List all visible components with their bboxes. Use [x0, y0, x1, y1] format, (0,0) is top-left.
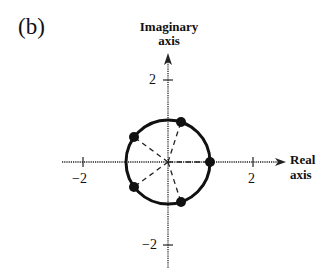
pole-point — [176, 197, 186, 207]
y-tick-label-2: 2 — [149, 73, 156, 87]
pole-diagram: (b) Imaginary axis Real axis −2 2 2 −2 — [0, 0, 330, 272]
real-axis-arrow-icon — [275, 158, 286, 166]
x-tick-label-2: 2 — [248, 172, 255, 186]
pole-point — [176, 117, 186, 127]
x-tick-label-neg2: −2 — [72, 172, 87, 186]
pole-point — [205, 157, 215, 167]
panel-label: (b) — [18, 15, 45, 38]
pole-point — [129, 182, 139, 192]
pole-point — [129, 132, 139, 142]
y-tick-label-neg2: −2 — [142, 238, 157, 252]
real-axis-title: Real axis — [290, 152, 315, 182]
imaginary-axis-title-line1: Imaginary — [134, 20, 204, 34]
real-axis-title-line1: Real — [290, 152, 315, 167]
real-axis-title-line2: axis — [290, 167, 315, 182]
imaginary-axis-title-line2: axis — [134, 34, 204, 48]
imaginary-axis-title: Imaginary axis — [134, 20, 204, 48]
